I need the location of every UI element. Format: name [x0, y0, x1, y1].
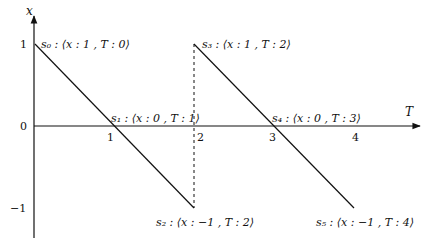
state-label-s0: s₀ : ⟨x : 1 , T : 0⟩ — [41, 38, 130, 51]
state-label-s1: s₁ : ⟨x : 0 , T : 1⟩ — [111, 112, 200, 125]
x-tick-1: 1 — [107, 131, 114, 144]
y-axis-label: x — [26, 4, 33, 18]
y-tick-1: 1 — [20, 38, 27, 51]
x-tick-2: 2 — [197, 131, 204, 144]
y-tick-0: 0 — [20, 120, 27, 133]
state-label-s5: s₅ : ⟨x : −1 , T : 4⟩ — [316, 216, 414, 229]
state-label-s3: s₃ : ⟨x : 1 , T : 2⟩ — [202, 38, 291, 51]
x-axis-label: T — [405, 105, 414, 119]
x-tick-3: 3 — [269, 131, 276, 144]
state-label-s2: s₂ : ⟨x : −1 , T : 2⟩ — [156, 216, 254, 229]
x-tick-4: 4 — [352, 131, 359, 144]
state-label-s4: s₄ : ⟨x : 0 , T : 3⟩ — [272, 112, 361, 125]
y-tick-neg1: −1 — [10, 202, 26, 215]
phase-diagram: x T 1 0 −1 1 2 3 4 s₀ : ⟨x : 1 , T : 0⟩ … — [0, 0, 428, 248]
